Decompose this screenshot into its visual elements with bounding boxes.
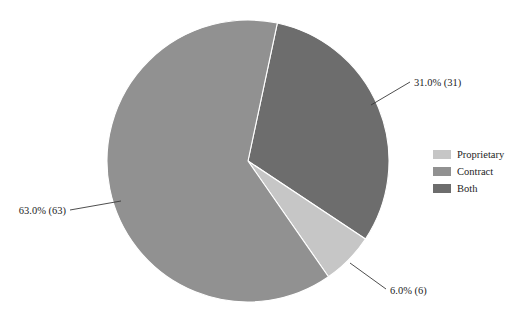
pie-chart-figure: 31.0% (31) 6.0% (6) 63.0% (63) Proprieta… — [0, 0, 528, 322]
chart-canvas: 31.0% (31) 6.0% (6) 63.0% (63) Proprieta… — [0, 0, 528, 322]
legend-swatch-proprietary — [433, 150, 451, 159]
data-label-proprietary: 6.0% (6) — [390, 285, 427, 297]
legend-label-both[interactable]: Both — [457, 183, 478, 194]
data-label-both: 31.0% (31) — [414, 77, 462, 89]
legend-swatch-contract — [433, 167, 451, 176]
legend-swatch-both — [433, 184, 451, 193]
legend-label-proprietary[interactable]: Proprietary — [457, 149, 505, 160]
data-label-contract: 63.0% (63) — [19, 205, 67, 217]
pie-slices — [107, 20, 389, 302]
legend-label-contract[interactable]: Contract — [457, 166, 493, 177]
